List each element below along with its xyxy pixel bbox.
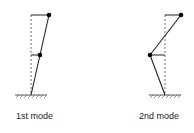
floor1-mass (148, 53, 153, 58)
floor1-mass (38, 53, 43, 58)
mode-2-label: 2nd mode (139, 111, 179, 121)
mode-1-label: 1st mode (16, 111, 53, 121)
mode-2-diagram (148, 13, 184, 98)
floor2-mass (47, 13, 52, 18)
floor2-mass (179, 13, 184, 18)
mode-1-diagram (15, 13, 51, 98)
